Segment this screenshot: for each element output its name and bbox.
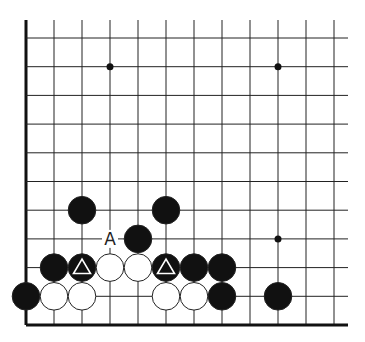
white-stone	[96, 254, 124, 282]
black-stone	[12, 283, 40, 311]
black-stone	[152, 196, 180, 224]
star-point-icon	[107, 63, 114, 70]
black-stone	[208, 254, 236, 282]
white-stone	[180, 283, 208, 311]
black-stone	[68, 196, 96, 224]
board-labels: A	[102, 229, 118, 249]
black-stone	[124, 225, 152, 253]
black-stone	[40, 254, 68, 282]
white-stone	[68, 283, 96, 311]
star-point-icon	[275, 235, 282, 242]
star-point-icon	[275, 63, 282, 70]
black-stone	[208, 283, 236, 311]
black-stone	[264, 283, 292, 311]
black-stone	[180, 254, 208, 282]
white-stone	[152, 283, 180, 311]
white-stone	[124, 254, 152, 282]
go-board: A	[0, 0, 365, 342]
point-label: A	[104, 229, 116, 249]
white-stone	[40, 283, 68, 311]
